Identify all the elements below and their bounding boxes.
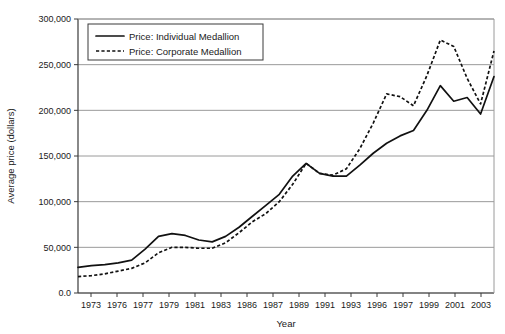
- series-line-2: [78, 40, 494, 277]
- chart-container: 0.050,000100,000150,000200,000250,000300…: [0, 0, 505, 334]
- x-tick-label: 1979: [159, 300, 179, 310]
- x-axis-title: Year: [276, 318, 295, 329]
- y-tick-label: 250,000: [38, 60, 71, 70]
- x-tick-label: 1996: [367, 300, 387, 310]
- y-tick-label: 50,000: [43, 243, 71, 253]
- y-tick-label: 200,000: [38, 106, 71, 116]
- chart-legend: Price: Individual MedallionPrice: Corpor…: [88, 24, 263, 60]
- x-tick-label: 1991: [315, 300, 335, 310]
- x-tick-label: 1981: [185, 300, 205, 310]
- x-tick-label: 1989: [289, 300, 309, 310]
- x-tick-label: 1977: [133, 300, 153, 310]
- x-tick-label: 1976: [107, 300, 127, 310]
- x-tick-label: 2003: [471, 300, 491, 310]
- legend-label-1: Price: Individual Medallion: [129, 31, 239, 42]
- x-tick-label: 1983: [211, 300, 231, 310]
- y-tick-label: 150,000: [38, 151, 71, 161]
- x-axis-ticks-group: 1973197619771979198119831986198719891991…: [81, 293, 491, 310]
- y-tick-label: 300,000: [38, 14, 71, 24]
- x-tick-label: 1999: [419, 300, 439, 310]
- x-tick-label: 1993: [341, 300, 361, 310]
- y-axis-ticks-group: 0.050,000100,000150,000200,000250,000300…: [38, 14, 78, 298]
- x-tick-label: 1987: [263, 300, 283, 310]
- x-tick-label: 2001: [445, 300, 465, 310]
- y-tick-label: 100,000: [38, 197, 71, 207]
- x-tick-label: 1973: [81, 300, 101, 310]
- data-series-group: [78, 40, 494, 277]
- average-medallion-price-line-chart: 0.050,000100,000150,000200,000250,000300…: [0, 0, 505, 334]
- x-tick-label: 1997: [393, 300, 413, 310]
- x-tick-label: 1986: [237, 300, 257, 310]
- y-tick-label: 0.0: [58, 288, 71, 298]
- y-axis-title: Average price (dollars): [5, 108, 16, 203]
- series-line-1: [78, 77, 494, 268]
- legend-label-2: Price: Corporate Medallion: [129, 46, 241, 57]
